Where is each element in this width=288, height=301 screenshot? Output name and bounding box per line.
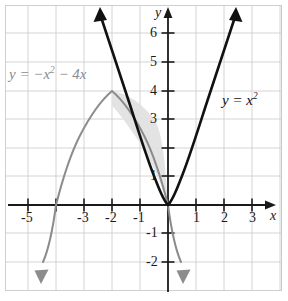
- gray-label-suffix: − 4x: [55, 66, 87, 82]
- coordinate-plane: [0, 0, 288, 301]
- x-tick-label--3: -3: [77, 211, 89, 225]
- gray-curve-equation-label: y = −x2 − 4x: [9, 66, 87, 82]
- x-tick-label--5: -5: [21, 211, 33, 225]
- y-tick-label-3: 3: [150, 112, 157, 126]
- x-tick-label-2: 2: [221, 211, 228, 225]
- black-label-prefix: y = x: [222, 92, 253, 108]
- black-label-exponent: 2: [253, 91, 258, 101]
- x-axis-label: x: [270, 209, 276, 223]
- x-tick-label-1: 1: [193, 211, 200, 225]
- y-tick-label--2: -2: [146, 255, 158, 269]
- x-tick-label-3: 3: [249, 211, 256, 225]
- black-curve-equation-label: y = x2: [222, 92, 258, 108]
- y-tick-label-1: 1: [150, 169, 157, 183]
- graph-figure: -5 -3 -2 -1 1 2 3 6 5 4 3 1 -1 -2 x y y …: [0, 0, 288, 301]
- y-tick-label--1: -1: [146, 226, 158, 240]
- y-tick-label-4: 4: [150, 84, 157, 98]
- y-axis-label: y: [155, 6, 161, 20]
- y-tick-label-6: 6: [150, 26, 157, 40]
- x-tick-label--1: -1: [133, 211, 145, 225]
- x-tick-label--2: -2: [105, 211, 117, 225]
- y-tick-label-5: 5: [150, 55, 157, 69]
- gray-label-prefix: y = −x: [9, 66, 50, 82]
